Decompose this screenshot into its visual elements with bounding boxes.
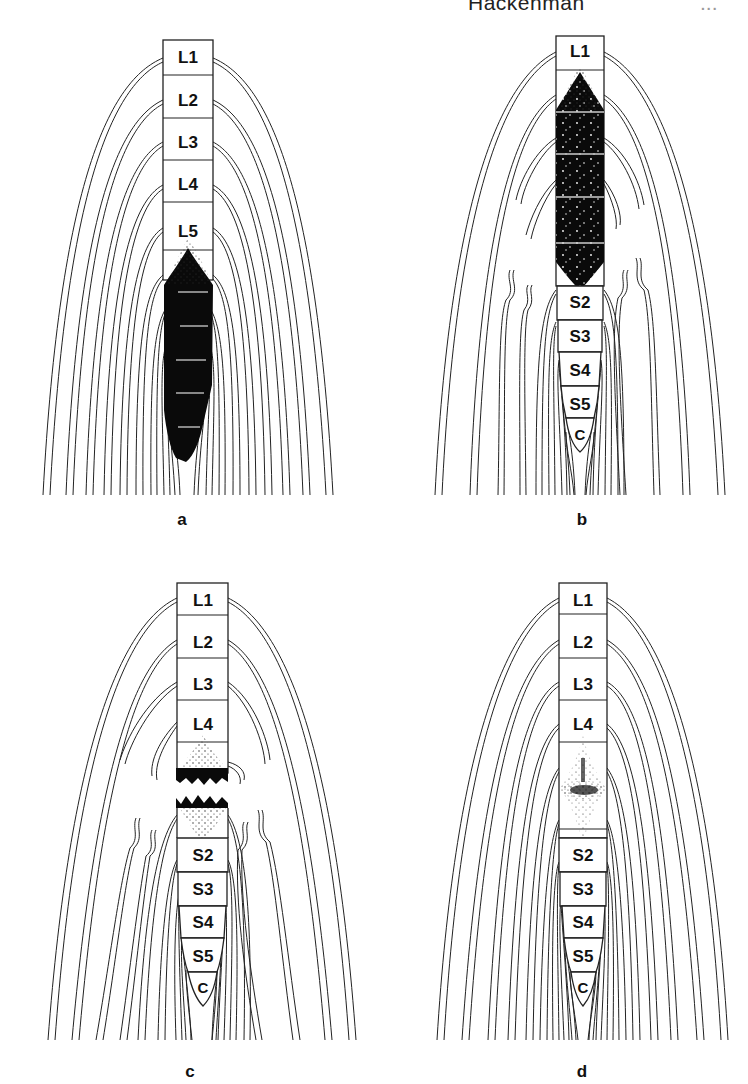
panel-caption-a: a — [177, 510, 187, 529]
vertebra-label: S2 — [193, 846, 214, 865]
panel-caption-c: c — [185, 1062, 194, 1081]
vertebra-label: S5 — [573, 947, 594, 966]
vertebra-label: S2 — [573, 846, 594, 865]
vertebra-label: S4 — [570, 361, 591, 380]
panel-caption-b: b — [577, 510, 587, 529]
panel-caption-d: d — [577, 1062, 587, 1081]
vertebra-label: S4 — [193, 913, 214, 932]
nerve-roots-left — [48, 598, 192, 1040]
nerve-roots-left — [437, 598, 578, 1040]
panel-d: L1 L2 L3 L4 S2 S3 S4 S5 C d — [437, 583, 728, 1081]
vertebra-label: S4 — [573, 913, 594, 932]
vertebra-label: L2 — [573, 633, 593, 652]
vertebra-label: L5 — [178, 222, 198, 241]
panel-a: L1 L2 L3 L4 L5 a — [43, 40, 333, 529]
vertebra-label: L3 — [178, 133, 198, 152]
vertebra-label: L1 — [570, 42, 590, 61]
vertebra-label: C — [198, 979, 209, 996]
nerve-roots-right — [194, 58, 333, 495]
nerve-roots-right — [588, 598, 728, 1040]
vertebra-label: L4 — [573, 715, 593, 734]
vertebra-label: S3 — [570, 327, 591, 346]
vertebra-label: C — [578, 979, 589, 996]
nerve-roots-left — [43, 58, 180, 495]
vertebra-label: L1 — [193, 591, 213, 610]
vertebra-label: L3 — [193, 675, 213, 694]
figure: L1 L2 L3 L4 L5 a — [0, 0, 748, 1084]
panel-b: L1 S2 S3 S4 S5 C b — [435, 36, 725, 529]
vertebra-label: L4 — [193, 715, 213, 734]
vertebra-label: L2 — [178, 91, 198, 110]
vertebra-label: S5 — [570, 395, 591, 414]
vertebra-label: S3 — [573, 880, 594, 899]
nerve-roots-left — [435, 52, 575, 495]
contrast-band-lower — [176, 795, 228, 808]
contrast-band-upper — [176, 768, 228, 785]
vertebra-label: S3 — [193, 880, 214, 899]
vertebra-label: S5 — [193, 947, 214, 966]
vertebra-label: L1 — [573, 591, 593, 610]
vertebra-label: L3 — [573, 675, 593, 694]
vertebra-label: C — [575, 426, 586, 443]
vertebra-label: L2 — [193, 633, 213, 652]
vertebra-label: S2 — [570, 293, 591, 312]
panel-c: L1 L2 L3 L4 S2 S3 S4 S5 C c — [48, 583, 356, 1081]
vertebra-label: L4 — [178, 175, 198, 194]
nerve-roots-right — [212, 598, 356, 1040]
nerve-roots-right — [585, 52, 725, 495]
vertebra-label: L1 — [178, 48, 198, 67]
